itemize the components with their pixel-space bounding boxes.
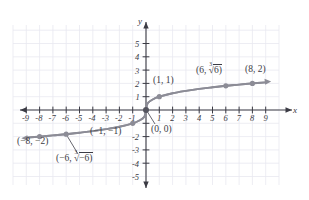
x-tick-label--9: -9 bbox=[22, 113, 29, 123]
x-tick-label--5: -5 bbox=[75, 113, 82, 123]
y-axis-name: y bbox=[138, 16, 142, 26]
point-label--8--2: (−8, −2) bbox=[17, 136, 48, 146]
point-label-6-cbrt6: (6, 3√6) bbox=[196, 64, 222, 75]
radical-index-3: 3 bbox=[209, 61, 212, 67]
point-label-1-1: (1, 1) bbox=[153, 75, 174, 85]
y-tick-label-4: 4 bbox=[135, 52, 139, 62]
y-tick-label-5: 5 bbox=[135, 39, 139, 49]
x-tick-label--6: -6 bbox=[62, 113, 69, 123]
point-1-1 bbox=[157, 94, 162, 99]
y-tick-label-1: 1 bbox=[136, 92, 140, 102]
point-6-cbrt6 bbox=[223, 83, 228, 88]
x-tick-label--1: -1 bbox=[128, 113, 135, 123]
x-tick-label-3: 3 bbox=[184, 113, 188, 123]
radical-index-3-negative: 3 bbox=[75, 149, 78, 155]
point-8-2 bbox=[250, 81, 255, 86]
point-label-8-2: (8, 2) bbox=[245, 64, 266, 74]
x-tick-label--2: -2 bbox=[115, 113, 122, 123]
x-tick-label-7: 7 bbox=[237, 113, 241, 123]
point-label--6-cbrt-6-prefix: (−6, bbox=[56, 153, 74, 163]
point-label-0-0: (0, 0) bbox=[151, 124, 172, 134]
y-tick-label--3: -3 bbox=[132, 145, 139, 155]
y-tick-label--5: -5 bbox=[132, 172, 139, 182]
y-tick-label-2: 2 bbox=[135, 79, 139, 89]
point-label-6-cbrt6-radicand: 6) bbox=[213, 64, 222, 75]
y-tick-label--4: -4 bbox=[132, 159, 139, 169]
graph-figure: -9 -8 -7 -6 -5 -4 -3 -2 -1 1 2 3 4 5 6 7… bbox=[0, 0, 309, 200]
x-tick-label-2: 2 bbox=[170, 113, 174, 123]
point-label-6-cbrt6-prefix: (6, bbox=[196, 65, 209, 75]
x-tick-label--3: -3 bbox=[102, 113, 109, 123]
x-tick-label-5: 5 bbox=[210, 113, 214, 123]
cube-root-symbol: 3√6) bbox=[209, 64, 223, 75]
x-tick-label--8: -8 bbox=[35, 113, 42, 123]
graph-canvas bbox=[0, 0, 309, 200]
cube-root-symbol-negative: 3√−6) bbox=[74, 152, 93, 163]
x-tick-label--4: -4 bbox=[89, 113, 96, 123]
x-tick-label-1: 1 bbox=[157, 113, 161, 123]
x-tick-label-4: 4 bbox=[197, 113, 201, 123]
y-tick-label--2: -2 bbox=[132, 132, 139, 142]
x-tick-label--7: -7 bbox=[49, 113, 56, 123]
x-tick-label-9: 9 bbox=[263, 113, 267, 123]
point-label--6-cbrt-6: (−6, 3√−6) bbox=[56, 152, 93, 163]
point-0-0 bbox=[143, 107, 149, 113]
x-tick-label-6: 6 bbox=[224, 113, 228, 123]
x-axis-name: x bbox=[293, 105, 297, 115]
point-label--6-cbrt-6-radicand: −6) bbox=[79, 152, 93, 163]
y-tick-label-3: 3 bbox=[135, 66, 139, 76]
x-tick-label-8: 8 bbox=[250, 113, 254, 123]
point-n6-cbrt-n6 bbox=[64, 132, 69, 137]
point-label--1--1: (−1, −1) bbox=[90, 126, 121, 136]
